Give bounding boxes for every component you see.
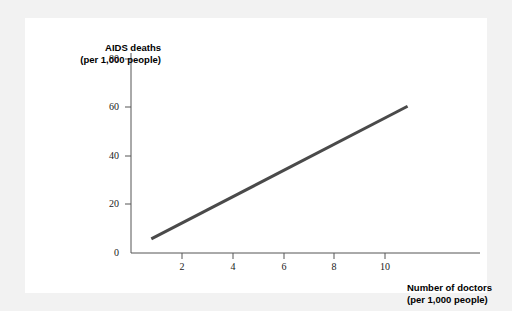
chart-page: AIDS deaths (per 1,000 people) Number of…: [0, 0, 512, 311]
x-tick-label-10: 10: [375, 261, 395, 272]
chart-card: AIDS deaths (per 1,000 people) Number of…: [25, 18, 487, 293]
x-tick-label-6: 6: [274, 261, 294, 272]
y-tick-label-60: 60: [93, 101, 119, 112]
x-axis-title-line-1: Number of doctors: [407, 282, 512, 294]
y-tick-label-0: 0: [93, 247, 119, 258]
x-tick-label-4: 4: [223, 261, 243, 272]
x-tick-label-2: 2: [172, 261, 192, 272]
x-axis-title-line-2: (per 1,000 people): [407, 294, 512, 306]
y-tick-label-20: 20: [93, 198, 119, 209]
x-axis-title: Number of doctors (per 1,000 people): [407, 282, 512, 306]
x-tick-label-8: 8: [324, 261, 344, 272]
data-series-line: [151, 106, 407, 239]
y-tick-label-80: 80: [93, 53, 119, 64]
y-tick-label-40: 40: [93, 150, 119, 161]
